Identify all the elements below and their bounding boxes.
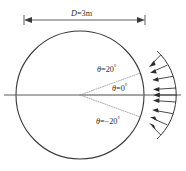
dimension-arrowhead-right xyxy=(137,17,145,23)
load-arrow-30 xyxy=(152,76,173,82)
dimension-label-unit: m xyxy=(86,8,93,17)
ray-plus-20-label: θ=20° xyxy=(97,63,117,74)
load-arrow-minus-40 xyxy=(149,123,161,135)
pressure-load-diagram: D=3m θ=20° θ=0° θ=−20° xyxy=(0,0,186,171)
load-arrow-minus-10 xyxy=(153,98,176,103)
ray-plus-20-line xyxy=(80,73,140,95)
load-arrow-10 xyxy=(153,87,176,92)
load-tail-bottom xyxy=(157,135,161,139)
load-arrow-0 xyxy=(153,93,176,98)
ray-minus-20-value: −20 xyxy=(105,117,118,126)
load-tail-top xyxy=(157,51,161,55)
load-arrow-minus-20 xyxy=(152,108,173,114)
figure-container: D=3m θ=20° θ=0° θ=−20° xyxy=(0,0,186,171)
dimension-label: D=3m xyxy=(70,8,93,17)
load-arrow-minus-30 xyxy=(150,117,168,126)
load-arrow-20 xyxy=(150,65,168,74)
ray-minus-20-degree: ° xyxy=(117,115,120,122)
ray-plus-20-value: 20 xyxy=(106,65,114,74)
ray-plus-20-degree: ° xyxy=(114,63,117,70)
load-arrow-40 xyxy=(149,55,161,67)
ray-minus-20-label: θ=−20° xyxy=(96,115,120,126)
dimension-arrowhead-left xyxy=(24,17,32,23)
ray-minus-20-line xyxy=(80,95,140,117)
ray-zero-label: θ=0° xyxy=(112,82,128,93)
ray-zero-degree: ° xyxy=(125,82,128,89)
